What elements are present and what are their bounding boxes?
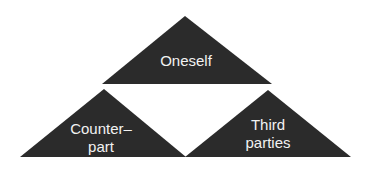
label-oneself: Oneself — [160, 52, 213, 69]
triangle-shape — [102, 16, 272, 84]
triangle-oneself: Oneself — [102, 16, 272, 84]
label-third-parties-line2: parties — [245, 134, 290, 151]
triangle-diagram: Oneself Counter– part Third parties — [0, 0, 366, 169]
triangle-third-parties: Third parties — [185, 90, 351, 157]
label-counterpart-line2: part — [88, 138, 115, 155]
label-counterpart-line1: Counter– — [70, 120, 132, 137]
label-third-parties-line1: Third — [251, 116, 285, 133]
triangle-counterpart: Counter– part — [20, 89, 186, 157]
